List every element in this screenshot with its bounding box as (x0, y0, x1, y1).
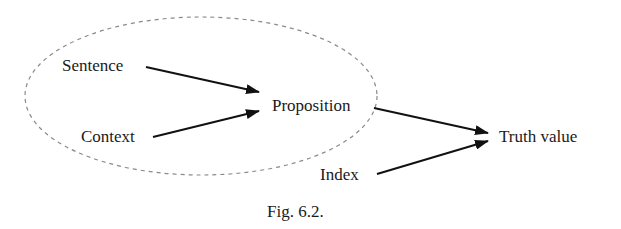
node-proposition: Proposition (272, 96, 351, 115)
node-sentence: Sentence (62, 56, 123, 75)
arrow-sentence-to-proposition (146, 67, 259, 92)
node-truth-value: Truth value (499, 127, 577, 146)
arrow-context-to-proposition (153, 111, 259, 137)
arrow-proposition-to-truth-value (374, 108, 488, 133)
arrow-index-to-truth-value (377, 141, 488, 174)
figure-caption: Fig. 6.2. (267, 202, 324, 221)
node-index: Index (320, 165, 359, 184)
node-context: Context (81, 127, 135, 146)
diagram-canvas: Sentence Context Proposition Index Truth… (0, 0, 621, 229)
